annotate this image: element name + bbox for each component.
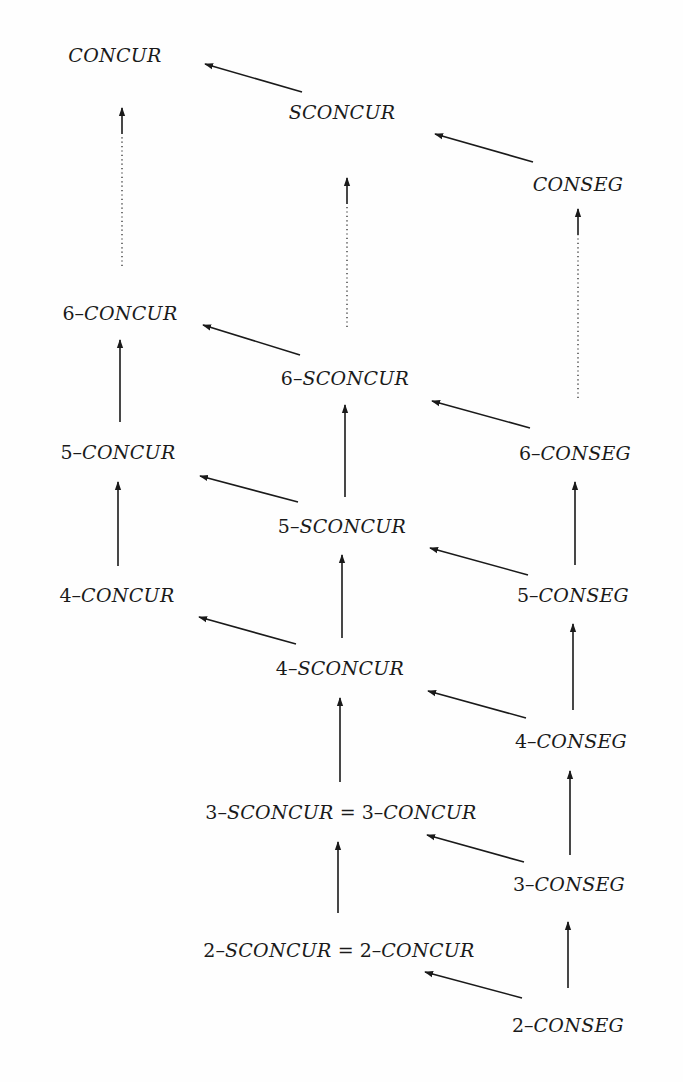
- node-name: CONSEG: [533, 1014, 624, 1036]
- arrow-3-conseg-to-3-sconcur-eq-3-concur: [427, 835, 524, 862]
- node-4-conseg: 4–CONSEG: [515, 730, 627, 752]
- node-name2: CONCUR: [383, 801, 476, 823]
- node-name: CONSEG: [538, 584, 629, 606]
- node-6-concur: 6–CONCUR: [63, 302, 178, 324]
- node-name: CONCUR: [81, 584, 174, 606]
- node-3-conseg: 3–CONSEG: [513, 873, 625, 895]
- node-name: SCONCUR: [289, 101, 396, 123]
- node-suffix: = 3–: [334, 801, 384, 823]
- node-5-concur: 5–CONCUR: [61, 441, 176, 463]
- node-name: CONCUR: [82, 441, 175, 463]
- edge-layer: [0, 0, 683, 1082]
- node-4-sconcur: 4–SCONCUR: [276, 657, 404, 679]
- node-name: CONSEG: [534, 873, 625, 895]
- node-prefix: 2–: [512, 1014, 534, 1036]
- node-2-sconcur-eq-2-concur: 2–SCONCUR = 2–CONCUR: [203, 939, 474, 961]
- node-prefix: 3–: [205, 801, 227, 823]
- node-sconcur: SCONCUR: [289, 101, 396, 123]
- node-prefix: 4–: [515, 730, 537, 752]
- node-name: SCONCUR: [225, 939, 332, 961]
- arrow-conseg-to-sconcur: [435, 134, 533, 162]
- arrow-6-conseg-to-6-sconcur: [432, 401, 530, 428]
- node-suffix: = 2–: [332, 939, 382, 961]
- node-6-sconcur: 6–SCONCUR: [281, 367, 409, 389]
- arrow-5-sconcur-to-5-concur: [200, 476, 298, 502]
- node-name: CONCUR: [84, 302, 177, 324]
- node-name: CONSEG: [540, 442, 631, 464]
- node-3-sconcur-eq-3-concur: 3–SCONCUR = 3–CONCUR: [205, 801, 476, 823]
- node-name: CONSEG: [536, 730, 627, 752]
- node-conseg: CONSEG: [533, 173, 624, 195]
- node-name2: CONCUR: [381, 939, 474, 961]
- node-2-conseg: 2–CONSEG: [512, 1014, 624, 1036]
- node-concur: CONCUR: [68, 44, 161, 66]
- arrow-2-conseg-to-2-sconcur-eq-2-concur: [425, 972, 522, 998]
- node-6-conseg: 6–CONSEG: [519, 442, 631, 464]
- arrow-4-sconcur-to-4-concur: [199, 617, 296, 644]
- node-prefix: 6–: [63, 302, 85, 324]
- hierarchy-diagram: CONCUR SCONCUR CONSEG 6–CONCUR 6–SCONCUR…: [0, 0, 683, 1082]
- node-prefix: 3–: [513, 873, 535, 895]
- node-5-sconcur: 5–SCONCUR: [278, 515, 406, 537]
- node-name: SCONCUR: [227, 801, 334, 823]
- arrow-4-conseg-to-4-sconcur: [428, 691, 526, 718]
- node-prefix: 5–: [278, 515, 300, 537]
- node-5-conseg: 5–CONSEG: [517, 584, 629, 606]
- node-name: CONSEG: [533, 173, 624, 195]
- node-prefix: 5–: [517, 584, 539, 606]
- node-name: CONCUR: [68, 44, 161, 66]
- arrow-5-conseg-to-5-sconcur: [430, 548, 528, 575]
- node-prefix: 6–: [519, 442, 541, 464]
- node-name: SCONCUR: [299, 515, 406, 537]
- node-prefix: 6–: [281, 367, 303, 389]
- node-prefix: 4–: [276, 657, 298, 679]
- node-prefix: 2–: [203, 939, 225, 961]
- arrow-sconcur-to-concur: [205, 64, 302, 92]
- node-prefix: 5–: [61, 441, 83, 463]
- node-prefix: 4–: [60, 584, 82, 606]
- node-name: SCONCUR: [297, 657, 404, 679]
- arrow-6-sconcur-to-6-concur: [203, 325, 300, 355]
- node-4-concur: 4–CONCUR: [60, 584, 175, 606]
- node-name: SCONCUR: [302, 367, 409, 389]
